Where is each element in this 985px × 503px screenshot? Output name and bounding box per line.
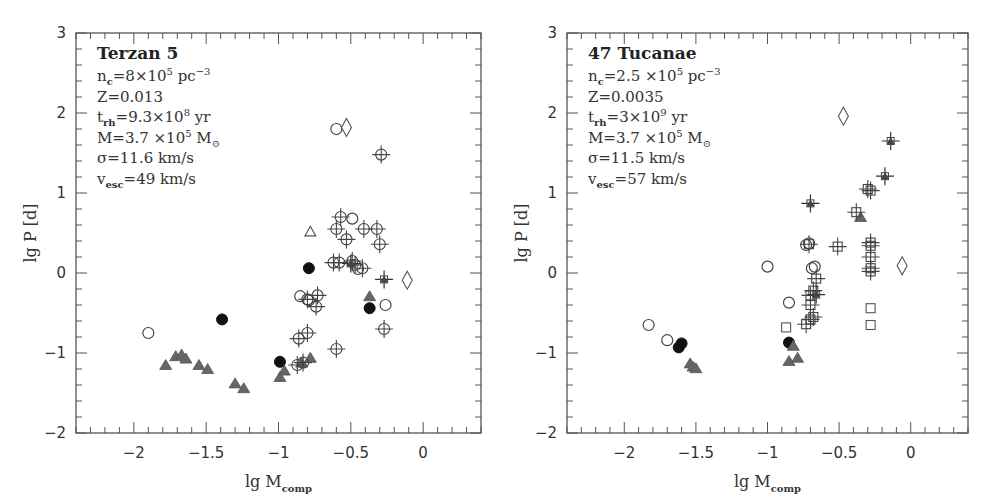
triangle-filled-marker (229, 378, 241, 388)
annotation-line: M=3.7 ×105 M⊙ (588, 128, 711, 149)
cross-marker (876, 167, 894, 185)
y-tick-label: 2 (56, 104, 66, 122)
series-open-triangle (305, 226, 316, 236)
annotation-line: nc=8×105 pc−3 (97, 66, 210, 87)
crosshair-circle-marker (371, 235, 389, 253)
x-tick-label: −0.5 (821, 444, 857, 462)
x-tick-label: −0.5 (333, 444, 369, 462)
circle-open-marker (295, 291, 306, 302)
series-filled-triangle (160, 291, 376, 393)
annotation-line: vesc=57 km/s (587, 170, 687, 190)
y-tick-label: 2 (547, 104, 557, 122)
y-axis-title: lg P [d] (512, 203, 531, 262)
crosshair-circle-marker (307, 298, 325, 316)
cross-marker (882, 132, 900, 150)
y-tick-label: 0 (56, 264, 66, 282)
x-axis-title: lg Mcomp (245, 472, 312, 494)
crosshair-square-marker (797, 315, 815, 333)
y-tick-label: −2 (44, 424, 66, 442)
crosshair-circle-marker (375, 320, 393, 338)
square-open-marker (866, 321, 875, 330)
y-tick-label: 1 (56, 184, 66, 202)
series-filled-triangle (684, 212, 866, 373)
annotation-line: Z=0.0035 (588, 88, 663, 106)
y-tick-label: −2 (535, 424, 557, 442)
y-tick-label: 3 (547, 24, 557, 42)
circle-filled-marker (303, 263, 314, 274)
crosshair-square-marker (829, 238, 847, 256)
crosshair-circle-marker (298, 290, 316, 308)
cluster-annotation: 47 Tucanaenc=2.5 ×105 pc−3Z=0.0035trh=3×… (587, 43, 721, 190)
triangle-open-marker (305, 226, 316, 236)
crosshair-square-marker (862, 262, 880, 280)
circle-open-marker (380, 300, 391, 311)
figure-canvas: −2−1.5−1−0.50−2−10123lg Mcomplg P [d]Ter… (0, 0, 985, 503)
cross-marker (801, 194, 819, 212)
y-tick-label: −1 (535, 344, 557, 362)
x-tick-label: −1 (756, 444, 778, 462)
y-tick-label: 0 (547, 264, 557, 282)
circle-open-marker (143, 328, 154, 339)
crosshair-square-marker (804, 308, 822, 326)
diamond-open-marker (402, 271, 412, 289)
series-crosshair-circle (288, 146, 393, 374)
x-axis-title: lg Mcomp (734, 472, 801, 494)
series-open-circle (643, 238, 820, 346)
triangle-filled-marker (304, 352, 316, 362)
panel-terzan-5: −2−1.5−1−0.50−2−10123lg Mcomplg P [d]Ter… (21, 24, 481, 494)
annotation-line: σ=11.5 km/s (588, 149, 685, 167)
data-points (643, 107, 907, 373)
cluster-name: 47 Tucanae (588, 43, 697, 63)
annotation-line: Z=0.013 (97, 88, 163, 106)
diamond-open-marker (897, 257, 907, 275)
circle-filled-marker (217, 314, 228, 325)
annotation-line: M=3.7 ×105 M⊙ (97, 128, 220, 149)
crosshair-square-marker (800, 235, 818, 253)
square-open-marker (782, 323, 791, 332)
y-tick-label: −1 (44, 344, 66, 362)
circle-open-marker (662, 335, 673, 346)
triangle-filled-marker (193, 360, 205, 370)
triangle-filled-marker (364, 291, 376, 301)
cluster-name: Terzan 5 (97, 43, 178, 63)
x-tick-label: −2 (123, 444, 145, 462)
crosshair-circle-marker (327, 340, 345, 358)
annotation-line: σ=11.6 km/s (97, 149, 194, 167)
annotation-line: trh=3×109 yr (588, 107, 688, 128)
circle-open-marker (762, 261, 773, 272)
y-axis-title: lg P [d] (21, 203, 40, 262)
x-tick-label: −1.5 (678, 444, 714, 462)
crosshair-circle-marker (368, 220, 386, 238)
annotation-line: nc=2.5 ×105 pc−3 (588, 66, 721, 87)
y-tick-label: 1 (547, 184, 557, 202)
series-open-square (782, 304, 875, 332)
annotation-line: vesc=49 km/s (96, 170, 196, 190)
circle-open-marker (347, 213, 358, 224)
panel-47-tucanae: −2−1.5−1−0.50−2−10123lg Mcomplg P [d]47 … (512, 24, 968, 494)
x-tick-label: −2 (613, 444, 635, 462)
circle-open-marker (331, 124, 342, 135)
crosshair-circle-marker (372, 146, 390, 164)
cluster-annotation: Terzan 5nc=8×105 pc−3Z=0.013trh=9.3×108 … (96, 43, 220, 190)
x-tick-label: 0 (418, 444, 428, 462)
circle-open-marker (809, 261, 820, 272)
crosshair-circle-marker (290, 330, 308, 348)
y-tick-label: 3 (56, 24, 66, 42)
circle-filled-marker (676, 338, 687, 349)
annotation-line: trh=9.3×108 yr (97, 107, 211, 128)
series-filled-circle (673, 337, 794, 353)
circle-filled-marker (364, 303, 375, 314)
circle-open-marker (643, 320, 654, 331)
diamond-open-marker (838, 107, 848, 125)
crosshair-circle-marker (298, 324, 316, 342)
x-tick-label: 0 (906, 444, 916, 462)
x-tick-label: −1.5 (188, 444, 224, 462)
circle-open-marker (783, 297, 794, 308)
series-filled-circle (217, 263, 376, 368)
x-tick-label: −1 (267, 444, 289, 462)
square-open-marker (866, 304, 875, 313)
diamond-open-marker (341, 118, 351, 136)
triangle-filled-marker (792, 352, 804, 362)
crosshair-square-marker (807, 270, 825, 288)
cross-marker (375, 270, 393, 288)
